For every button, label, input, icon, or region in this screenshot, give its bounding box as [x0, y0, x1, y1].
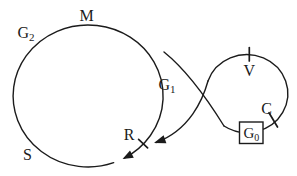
restriction-point-label: R — [124, 126, 135, 143]
phase-label-m: M — [79, 7, 93, 24]
main-cycle-circle — [13, 25, 163, 167]
phase-label-g1: G1 — [159, 76, 176, 96]
phase-label-g2: G2 — [18, 24, 35, 44]
c-checkpoint-label: C — [261, 100, 272, 117]
phase-label-s: S — [23, 146, 32, 163]
cycle-direction-arrowhead — [123, 150, 134, 159]
cell-cycle-diagram: M G2 G1 S R V C G0 — [0, 0, 297, 176]
g0-return-arrowhead — [154, 135, 166, 143]
v-checkpoint-label: V — [244, 62, 256, 79]
